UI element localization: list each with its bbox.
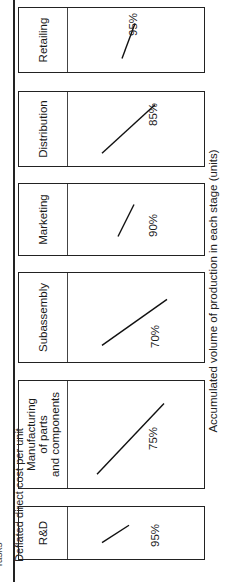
stage-name: Distribution bbox=[37, 100, 49, 158]
learning-curve-diagram: Deflated direct cost per unit R&D 95% Ma… bbox=[0, 0, 225, 582]
learning-curve-line bbox=[67, 92, 204, 166]
stage-name: Retailing bbox=[37, 18, 49, 63]
stage-box-subassembly: Subassembly 70% bbox=[18, 272, 205, 363]
learning-rate: 85% bbox=[147, 103, 159, 126]
stage-box-rnd: R&D 95% bbox=[18, 506, 205, 560]
stage-name: Marketing bbox=[37, 194, 49, 245]
learning-rate: 70% bbox=[149, 325, 161, 348]
stage-header: Retailing bbox=[19, 8, 68, 72]
stage-box-retailing: Retailing 95% bbox=[18, 7, 205, 73]
stage-header: R&D bbox=[19, 507, 68, 559]
stage-name: Subassembly bbox=[37, 283, 49, 352]
top-label: Tasks bbox=[0, 542, 4, 568]
learning-rate: 75% bbox=[147, 427, 159, 450]
stage-box-manufacturing: Manufacturing of parts and components 75… bbox=[18, 380, 205, 489]
stage-header: Subassembly bbox=[19, 273, 68, 362]
stage-box-distribution: Distribution 85% bbox=[18, 91, 205, 167]
stage-box-marketing: Marketing 90% bbox=[18, 183, 205, 256]
learning-rate: 95% bbox=[127, 13, 139, 36]
learning-curve-line bbox=[67, 381, 204, 488]
learning-curve-line bbox=[67, 507, 204, 559]
x-axis-label: Accumulated volume of production in each… bbox=[207, 0, 219, 582]
stage-header: Distribution bbox=[19, 92, 68, 166]
stage-header: Manufacturing of parts and components bbox=[19, 381, 68, 488]
learning-curve-line bbox=[67, 184, 204, 255]
learning-curve-line bbox=[67, 273, 204, 362]
stage-header: Marketing bbox=[19, 184, 68, 255]
learning-rate: 90% bbox=[147, 214, 159, 237]
stage-name: R&D bbox=[37, 521, 49, 545]
learning-rate: 95% bbox=[149, 524, 161, 547]
stage-name: Manufacturing of parts and components bbox=[25, 392, 61, 477]
